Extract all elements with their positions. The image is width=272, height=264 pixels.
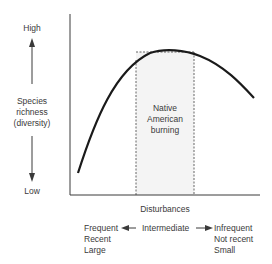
x-left-line2: Recent bbox=[84, 234, 118, 245]
x-right-line2: Not recent bbox=[214, 234, 253, 245]
region-label: Native American burning bbox=[136, 103, 194, 136]
y-title-line2: richness bbox=[8, 107, 56, 118]
arrow-up-icon bbox=[29, 38, 35, 47]
region-label-line1: Native bbox=[136, 103, 194, 114]
y-high-label: High bbox=[20, 23, 44, 34]
x-axis-title: Disturbances bbox=[110, 204, 220, 215]
y-axis-title: Species richness (diversity) bbox=[8, 96, 56, 129]
region-label-line3: burning bbox=[136, 125, 194, 136]
x-right-line1: Infrequent bbox=[214, 223, 253, 234]
arrow-left-icon bbox=[121, 225, 129, 231]
x-right-labels: Infrequent Not recent Small bbox=[214, 223, 253, 256]
region-label-line2: American bbox=[136, 114, 194, 125]
y-low-label: Low bbox=[20, 186, 44, 197]
x-left-labels: Frequent Recent Large bbox=[84, 223, 118, 256]
y-title-line3: (diversity) bbox=[8, 118, 56, 129]
arrow-down-icon bbox=[29, 173, 35, 182]
x-middle-label: Intermediate bbox=[142, 223, 189, 234]
x-left-line3: Large bbox=[84, 245, 118, 256]
arrow-right-icon bbox=[205, 225, 213, 231]
y-title-line1: Species bbox=[8, 96, 56, 107]
x-right-line3: Small bbox=[214, 245, 253, 256]
x-left-line1: Frequent bbox=[84, 223, 118, 234]
